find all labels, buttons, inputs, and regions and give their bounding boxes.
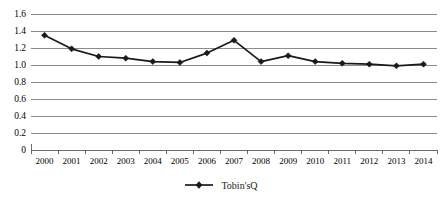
data-point-marker (393, 63, 399, 69)
x-axis-tick-label: 2003 (117, 156, 136, 165)
y-axis-tick-label: 1.2 (14, 43, 26, 53)
x-axis-tick-label: 2009 (279, 156, 298, 165)
y-axis-tick-label: 0.2 (14, 128, 26, 138)
x-axis-tick-label: 2014 (414, 156, 433, 165)
y-axis-tick-label: 0 (21, 145, 26, 155)
x-axis-tick-label: 2011 (333, 156, 351, 165)
data-point-marker (420, 61, 426, 67)
y-axis-tick-label: 1.6 (14, 9, 26, 19)
data-point-marker (123, 55, 129, 61)
x-axis-tick-label: 2002 (90, 156, 108, 165)
y-axis-tick-label: 1.4 (14, 26, 26, 36)
y-axis-tick-label: 0.6 (14, 94, 26, 104)
x-axis-tick-label: 2004 (144, 156, 163, 165)
data-point-marker (312, 59, 318, 65)
data-point-marker (69, 46, 75, 52)
data-point-marker (96, 54, 102, 60)
x-axis-tick-label: 2005 (171, 156, 190, 165)
data-point-marker (150, 59, 156, 65)
data-point-marker (177, 59, 183, 65)
y-axis-tick-label: 0.8 (14, 77, 26, 87)
x-axis-tick-label: 2006 (198, 156, 217, 165)
chart-legend: Tobin'sQ (0, 176, 442, 194)
x-axis-tick-label: 2007 (225, 156, 244, 165)
x-axis-tick-label: 2000 (36, 156, 55, 165)
x-axis-tick-label: 2008 (252, 156, 271, 165)
data-point-marker (42, 32, 48, 38)
plot-svg: 1.61.41.21.00.80.60.40.20200020012002200… (0, 0, 442, 165)
data-point-marker (366, 61, 372, 67)
x-axis-tick-label: 2001 (63, 156, 81, 165)
data-point-marker (204, 50, 210, 56)
x-axis-tick-label: 2012 (360, 156, 378, 165)
legend-marker-icon (184, 180, 214, 190)
y-axis-tick-label: 0.4 (14, 111, 26, 121)
plot-area: 1.61.41.21.00.80.60.40.20200020012002200… (0, 0, 442, 165)
x-axis-tick-label: 2013 (387, 156, 406, 165)
y-axis-tick-label: 1.0 (14, 60, 26, 70)
legend-label-tobins-q: Tobin'sQ (221, 180, 257, 191)
data-point-marker (285, 53, 291, 59)
tobins-q-line-chart: 1.61.41.21.00.80.60.40.20200020012002200… (0, 0, 442, 200)
x-axis-tick-label: 2010 (306, 156, 325, 165)
